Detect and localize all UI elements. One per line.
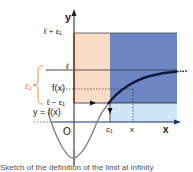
fx-label: f(x)	[52, 84, 65, 93]
peach-band	[74, 33, 110, 103]
y-axis-label: y	[65, 12, 71, 23]
x-value-label: x	[130, 126, 134, 134]
c1-label: c₁	[106, 126, 113, 134]
curve-continuation-dotted	[177, 71, 188, 72]
x-axis-arrow-icon	[174, 120, 181, 125]
epsilon-label: ε₁	[25, 82, 32, 91]
limit-label: ℓ	[66, 63, 69, 71]
curve-label: y = f(x)	[33, 108, 61, 117]
upper-bound-label: ℓ + ε₁	[44, 28, 62, 36]
y-axis-arrow-icon	[72, 9, 77, 16]
figure-caption: Sketch of the definition of the limit at…	[0, 164, 193, 172]
x-axis-label: x	[163, 125, 169, 135]
lower-bound-label: ℓ − ε₁	[47, 99, 65, 107]
epsilon-brace	[33, 66, 43, 104]
origin-label: O	[63, 127, 71, 137]
light-blue-region	[110, 103, 177, 122]
limit-diagram: y ℓ + ε₁ ℓ f(x) ℓ − ε₁ ε₁ y = f(x) O c₁ …	[0, 0, 193, 172]
